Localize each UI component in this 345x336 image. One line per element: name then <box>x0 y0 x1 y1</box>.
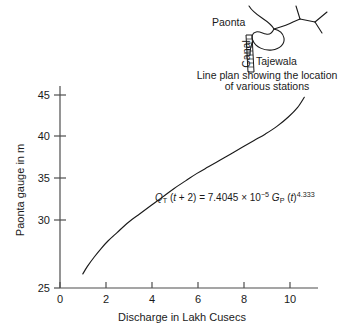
eq-part-exponent-minus-five: −5 <box>261 190 269 199</box>
river-tributary-north <box>296 6 300 19</box>
x-tick-label-4: 4 <box>149 293 155 305</box>
inset-label-tajewala: Tajewala <box>256 55 297 67</box>
eq-part-ten: 10 <box>247 192 261 203</box>
figure-canvas: Canal Paonta Tajewala Line plan showing … <box>0 0 345 336</box>
rating-equation-annotation: QT (t + 2) = 7.4045 × 10−5 GP (t)4.333 <box>155 190 315 205</box>
rating-curve-line <box>83 97 304 274</box>
x-tick-label-0: 0 <box>57 293 63 305</box>
x-tick-label-2: 2 <box>103 293 109 305</box>
x-axis-ticks <box>60 282 290 288</box>
x-axis-tick-labels: 0 2 4 6 8 10 <box>57 293 296 305</box>
inset-label-paonta: Paonta <box>212 16 245 28</box>
y-tick-label-35: 35 <box>38 172 50 184</box>
river-tributary-northeast <box>315 12 327 22</box>
x-tick-label-10: 10 <box>284 293 296 305</box>
y-tick-label-30: 30 <box>38 214 50 226</box>
eq-part-plus-two: + 2) = 7.4045 <box>176 192 241 203</box>
river-loop-meander <box>252 29 284 50</box>
canal-label: Canal <box>240 40 252 67</box>
inset-caption-line-2: of various stations <box>225 80 310 92</box>
river-main-channel <box>249 6 274 29</box>
inset-line-plan-diagram: Canal Paonta Tajewala Line plan showing … <box>197 6 338 92</box>
eq-part-g: G <box>269 192 280 203</box>
chart-plot-area <box>83 97 304 274</box>
river-tributary-southeast <box>315 22 322 33</box>
eq-part-exponent-power: 4.333 <box>297 190 315 199</box>
y-tick-label-25: 25 <box>38 282 50 294</box>
x-tick-label-6: 6 <box>195 293 201 305</box>
river-branch-upper <box>274 19 300 29</box>
figure-page: Canal Paonta Tajewala Line plan showing … <box>0 0 345 336</box>
y-axis-title: Paonta gauge in m <box>14 144 26 236</box>
y-tick-label-45: 45 <box>38 89 50 101</box>
x-tick-label-8: 8 <box>241 293 247 305</box>
y-tick-label-40: 40 <box>38 130 50 142</box>
river-tributary-east <box>300 19 315 22</box>
x-axis-title: Discharge in Lakh Cusecs <box>118 311 246 323</box>
y-axis-tick-labels: 45 40 35 30 25 <box>38 89 50 294</box>
